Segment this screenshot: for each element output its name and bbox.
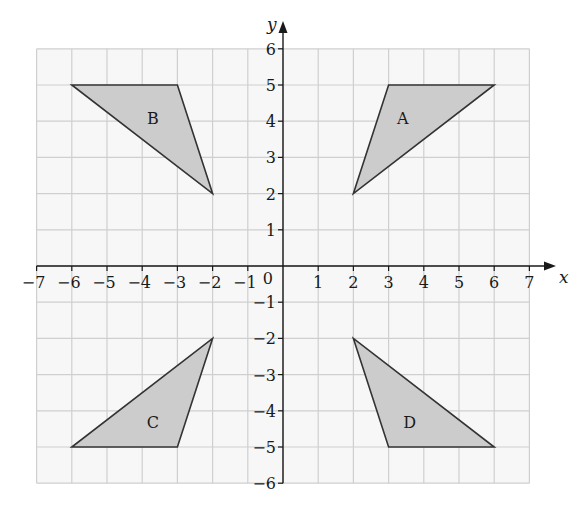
x-tick-label: 7 (524, 273, 534, 292)
x-tick-label: 3 (384, 273, 394, 292)
x-tick-label: −3 (163, 273, 187, 292)
y-tick-label: 1 (266, 221, 276, 240)
y-tick-label: 6 (266, 40, 276, 59)
x-tick-label: −5 (92, 273, 116, 292)
coordinate-grid-diagram: ABCD −7−6−5−4−3−2−11234567654321−1−2−3−4… (0, 0, 574, 505)
y-tick-label: −1 (252, 293, 276, 312)
triangle-label-c: C (147, 413, 159, 432)
y-tick-label: 4 (266, 112, 276, 131)
x-tick-label: −1 (233, 273, 257, 292)
y-tick-label: −6 (252, 474, 276, 493)
y-tick-label: 3 (266, 148, 276, 167)
x-tick-label: 5 (454, 273, 464, 292)
origin-label: 0 (263, 269, 273, 288)
y-tick-label: 5 (266, 76, 276, 95)
x-tick-label: 4 (419, 273, 429, 292)
x-tick-label: 1 (313, 273, 323, 292)
y-axis-arrow-icon (279, 21, 288, 33)
x-tick-label: −7 (22, 273, 46, 292)
x-tick-label: −6 (57, 273, 81, 292)
y-tick-label: 2 (266, 185, 276, 204)
y-tick-label: −5 (252, 438, 276, 457)
y-tick-label: −4 (252, 402, 276, 421)
triangle-label-d: D (403, 413, 416, 432)
y-tick-label: −2 (252, 329, 276, 348)
x-tick-label: 6 (489, 273, 499, 292)
x-axis-arrow-icon (544, 262, 556, 271)
triangle-label-b: B (147, 109, 159, 128)
y-tick-label: −3 (252, 366, 276, 385)
x-tick-label: −2 (198, 273, 222, 292)
y-axis-label: y (266, 14, 277, 34)
x-tick-label: −4 (127, 273, 151, 292)
x-axis-label: x (559, 267, 569, 287)
x-tick-label: 2 (348, 273, 358, 292)
triangle-label-a: A (396, 109, 409, 128)
